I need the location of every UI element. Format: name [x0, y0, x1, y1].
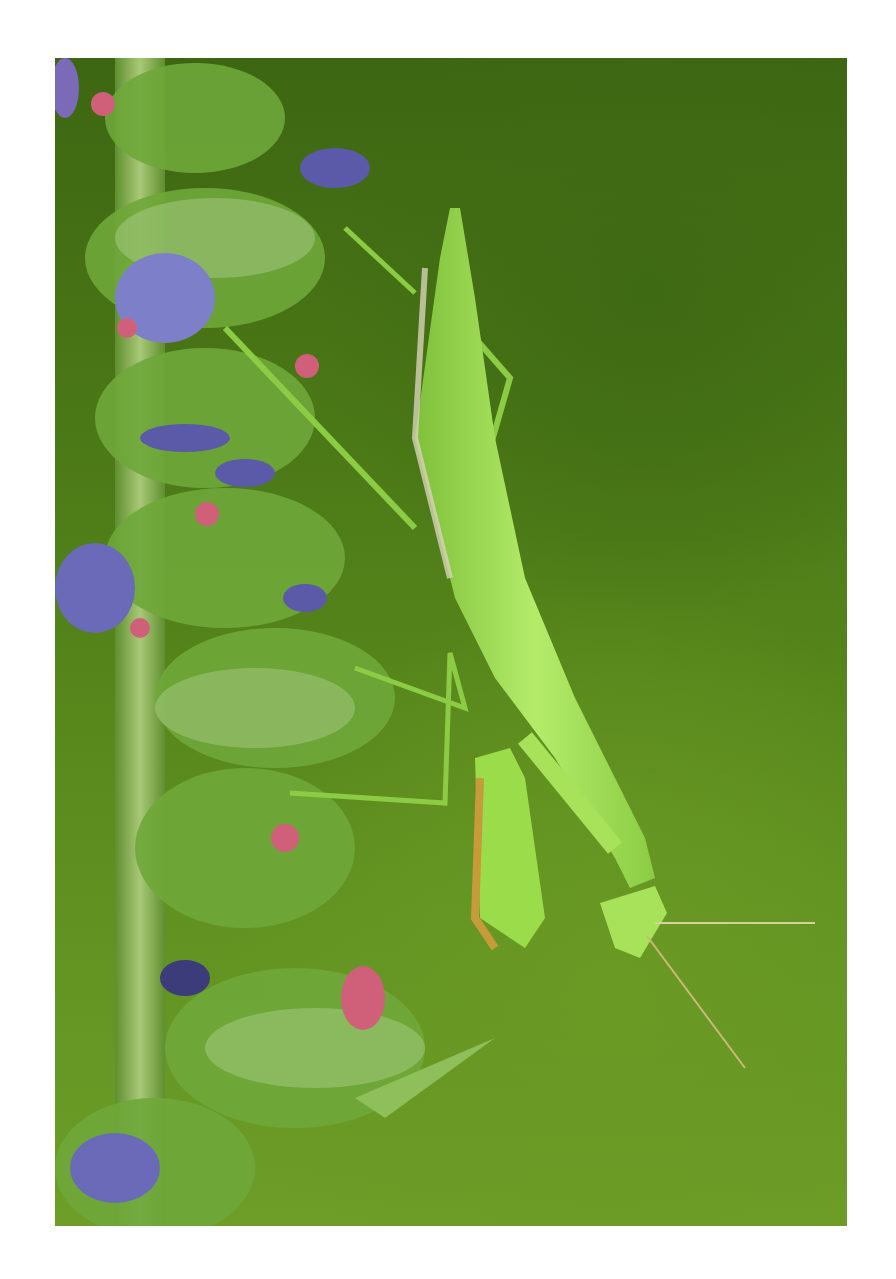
flowering-stem [55, 58, 495, 1226]
photo-illustration [55, 58, 847, 1226]
mantis-photo [55, 58, 847, 1226]
